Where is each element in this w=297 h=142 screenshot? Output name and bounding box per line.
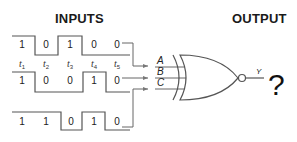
output-label-y: Y <box>256 67 262 76</box>
waveform-a: 1 0 1 0 0 <box>12 36 130 55</box>
bit-a-1: 1 <box>19 39 25 50</box>
bit-b-3: 0 <box>67 75 73 86</box>
bit-c-4: 1 <box>91 116 97 127</box>
bit-b-4: 1 <box>91 75 97 86</box>
time-label-5: t5 <box>114 58 121 70</box>
bit-c-3: 0 <box>68 116 74 127</box>
connector-c <box>122 89 148 127</box>
waveform-b: 1 0 0 1 0 <box>12 72 130 92</box>
time-labels: t1 t2 t3 t4 t5 <box>19 58 121 70</box>
gate-input-lines: A B C <box>155 55 186 89</box>
input-label-b: B <box>157 66 164 77</box>
output-unknown: ? <box>268 68 285 101</box>
time-label-1: t1 <box>19 58 26 70</box>
bit-a-4: 0 <box>91 39 97 50</box>
time-label-2: t2 <box>43 58 50 70</box>
time-label-4: t4 <box>91 58 98 70</box>
input-label-c: C <box>157 77 165 88</box>
bit-c-2: 1 <box>43 116 49 127</box>
input-label-a: A <box>156 55 164 66</box>
waveform-c: 1 1 0 1 0 <box>12 112 130 130</box>
bit-a-2: 0 <box>43 39 49 50</box>
bit-b-2: 0 <box>43 75 49 86</box>
time-label-3: t3 <box>67 58 74 70</box>
logic-diagram: 1 0 1 0 0 t1 t2 t3 t4 t5 1 0 0 1 0 1 1 0… <box>0 0 297 142</box>
bit-a-3: 1 <box>67 39 73 50</box>
inversion-bubble <box>239 75 246 82</box>
bit-c-1: 1 <box>19 116 25 127</box>
gate-body <box>180 55 238 100</box>
bit-c-5: 0 <box>114 116 120 127</box>
bit-a-5: 0 <box>114 39 120 50</box>
gate-output: Y ? <box>246 67 285 101</box>
bit-b-1: 1 <box>19 75 25 86</box>
bit-b-5: 0 <box>114 75 120 86</box>
